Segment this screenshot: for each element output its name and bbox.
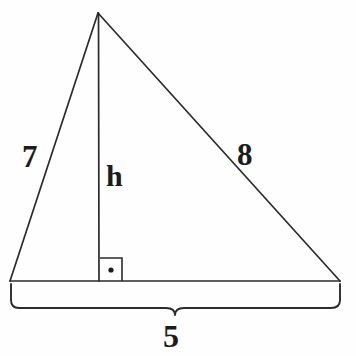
geometry-diagram: 7 8 h 5 [0, 0, 356, 356]
label-base: 5 [163, 320, 179, 352]
base-brace [11, 284, 340, 315]
triangle-figure-svg [0, 0, 356, 356]
triangle-right-side [98, 13, 340, 281]
label-height: h [106, 161, 123, 191]
label-right-side: 8 [237, 139, 253, 170]
altitude-line [99, 13, 100, 281]
right-angle-dot-icon [108, 267, 113, 272]
label-left-side: 7 [22, 141, 38, 172]
